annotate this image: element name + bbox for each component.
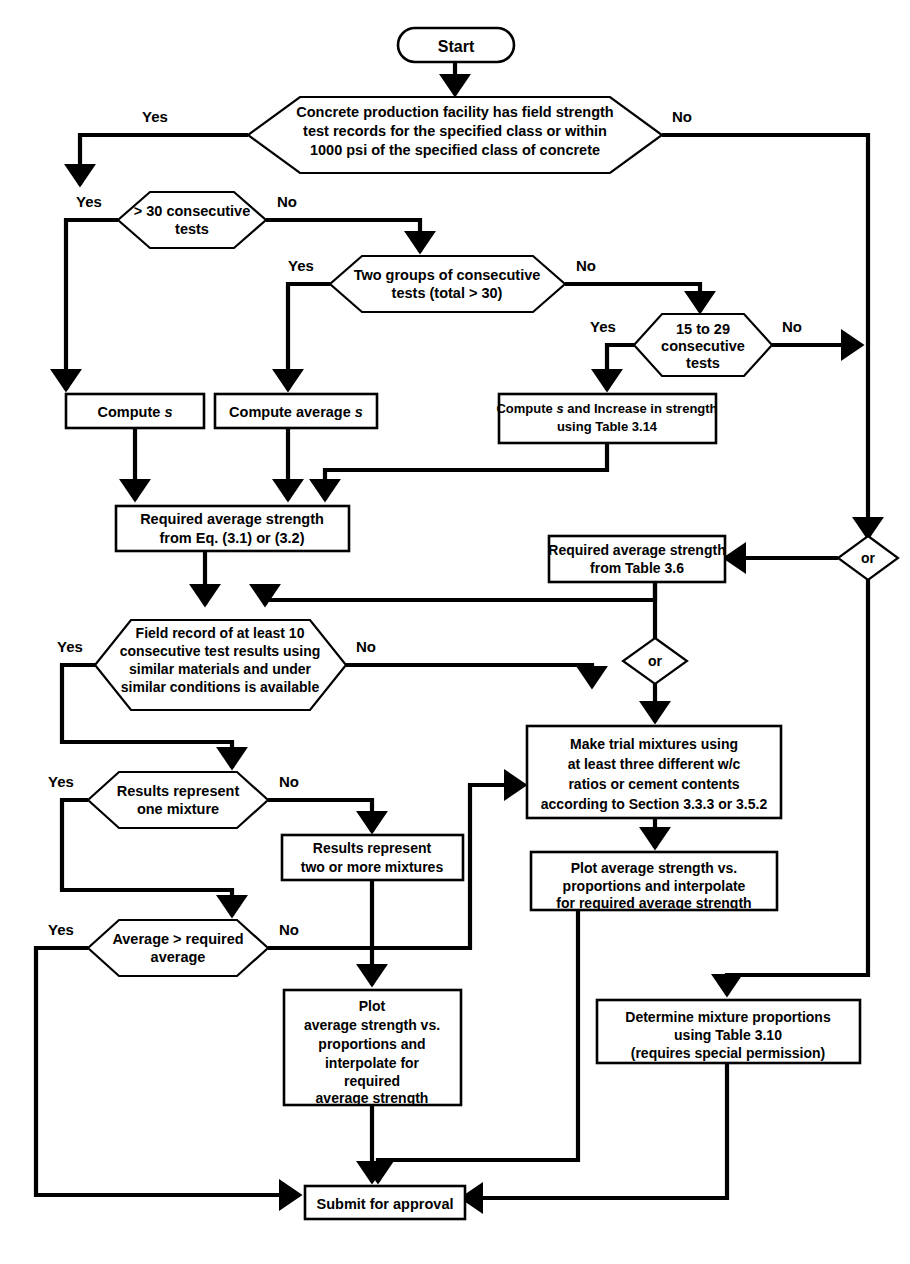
node-compute-table-line1: Compute s and Increase in strength bbox=[496, 401, 717, 416]
label-d2-yes: Yes bbox=[76, 193, 102, 210]
node-d5-line3: similar materials and under bbox=[129, 661, 312, 677]
edge-determine-to-submit bbox=[462, 1063, 727, 1198]
node-d1-line3: 1000 psi of the specified class of concr… bbox=[310, 142, 600, 158]
node-start-label: Start bbox=[438, 38, 475, 55]
label-d5-yes: Yes bbox=[57, 638, 83, 655]
node-start[interactable]: Start bbox=[398, 28, 514, 62]
node-plotleft-line4: interpolate for bbox=[325, 1055, 420, 1071]
node-d1-line2: test records for the specified class or … bbox=[303, 123, 607, 139]
node-decision-average-required[interactable]: Average > required average bbox=[88, 920, 268, 976]
node-or2-label: or bbox=[648, 653, 663, 669]
label-d7-yes: Yes bbox=[48, 921, 74, 938]
node-compute-table-line2: using Table 3.14 bbox=[557, 419, 658, 434]
edge-d2-yes bbox=[66, 220, 118, 390]
node-compute-s-label: Compute s bbox=[98, 404, 173, 420]
node-d1-line1: Concrete production facility has field s… bbox=[296, 104, 613, 120]
edge-d2-no bbox=[266, 220, 420, 252]
node-plot-left[interactable]: Plot average strength vs. proportions an… bbox=[284, 990, 461, 1106]
node-results-two-or-more[interactable]: Results represent two or more mixtures bbox=[282, 835, 463, 880]
node-d6-line1: Results represent bbox=[117, 783, 240, 799]
node-submit-label: Submit for approval bbox=[317, 1196, 454, 1212]
node-d7-line1: Average > required bbox=[112, 931, 243, 947]
node-d6-line2: one mixture bbox=[137, 801, 219, 817]
node-or-diamond-1[interactable]: or bbox=[838, 536, 898, 580]
node-resultstwo-line2: two or more mixtures bbox=[301, 859, 444, 875]
node-compute-s[interactable]: Compute s bbox=[66, 394, 204, 428]
label-d4-yes: Yes bbox=[590, 318, 616, 335]
edge-d4-yes bbox=[607, 345, 634, 390]
node-determine-line2: using Table 3.10 bbox=[674, 1027, 782, 1043]
node-d5-line4: similar conditions is available bbox=[121, 679, 320, 695]
node-decision-15-29-tests[interactable]: 15 to 29 consecutive tests bbox=[634, 314, 772, 376]
node-reqtable-line2: from Table 3.6 bbox=[590, 560, 684, 576]
node-d2-line1: > 30 consecutive bbox=[134, 203, 250, 219]
node-required-avg-eq[interactable]: Required average strength from Eq. (3.1)… bbox=[116, 506, 349, 551]
node-d5-line1: Field record of at least 10 bbox=[136, 625, 305, 641]
label-d6-yes: Yes bbox=[48, 773, 74, 790]
node-trial-line1: Make trial mixtures using bbox=[570, 736, 738, 752]
node-d4-line2: consecutive bbox=[661, 338, 745, 354]
node-plotleft-line2: average strength vs. bbox=[304, 1017, 440, 1033]
edge-d3-yes bbox=[288, 284, 330, 390]
label-d6-no: No bbox=[279, 773, 299, 790]
node-d5-line2: consecutive test results using bbox=[120, 643, 321, 659]
node-or1-label: or bbox=[861, 550, 876, 566]
label-d2-no: No bbox=[277, 193, 297, 210]
node-d3-line1: Two groups of consecutive bbox=[354, 267, 541, 283]
label-d1-no: No bbox=[672, 108, 692, 125]
node-compute-average-s-label: Compute average s bbox=[229, 404, 363, 420]
edge-d7-yes bbox=[36, 948, 300, 1195]
node-reqtable-line1: Required average strength bbox=[548, 542, 725, 558]
node-decision-30-tests[interactable]: > 30 consecutive tests bbox=[118, 192, 266, 248]
node-required-avg-table36[interactable]: Required average strength from Table 3.6 bbox=[548, 536, 725, 582]
node-plotright-line1: Plot average strength vs. bbox=[571, 860, 738, 876]
node-decision-one-mixture[interactable]: Results represent one mixture bbox=[88, 772, 268, 828]
edge-computetable-to-reqeq bbox=[325, 443, 607, 500]
node-or-diamond-2[interactable]: or bbox=[623, 638, 687, 684]
node-resultstwo-line1: Results represent bbox=[313, 840, 432, 856]
label-d3-yes: Yes bbox=[288, 257, 314, 274]
node-d7-line2: average bbox=[151, 949, 206, 965]
node-decision-field-records[interactable]: Concrete production facility has field s… bbox=[248, 97, 662, 173]
node-determine-line1: Determine mixture proportions bbox=[625, 1009, 831, 1025]
node-plotleft-line5: required bbox=[344, 1073, 400, 1089]
node-plotleft-line6: average strength bbox=[316, 1090, 429, 1106]
node-reqeq-line1: Required average strength bbox=[140, 511, 324, 527]
edge-d1-yes bbox=[80, 135, 248, 185]
label-d1-yes: Yes bbox=[142, 108, 168, 125]
node-determine-line3: (requires special permission) bbox=[631, 1045, 826, 1061]
label-d4-no: No bbox=[782, 318, 802, 335]
node-d4-line3: tests bbox=[686, 355, 720, 371]
node-compute-average-s[interactable]: Compute average s bbox=[215, 394, 377, 428]
node-plotright-line3: for required average strength bbox=[556, 895, 751, 911]
edge-d5-no bbox=[346, 665, 592, 687]
node-trial-line2: at least three different w/c bbox=[568, 756, 741, 772]
label-d7-no: No bbox=[279, 921, 299, 938]
node-trial-line3: ratios or cement contents bbox=[568, 776, 739, 792]
node-plot-right[interactable]: Plot average strength vs. proportions an… bbox=[531, 852, 777, 911]
node-d3-line2: tests (total > 30) bbox=[392, 285, 503, 301]
node-determine-proportions[interactable]: Determine mixture proportions using Tabl… bbox=[597, 1000, 860, 1063]
node-decision-two-groups[interactable]: Two groups of consecutive tests (total >… bbox=[330, 256, 565, 312]
node-plotright-line2: proportions and interpolate bbox=[563, 878, 746, 894]
node-plotleft-line3: proportions and bbox=[318, 1036, 425, 1052]
node-d4-line1: 15 to 29 bbox=[676, 321, 730, 337]
edge-d3-no bbox=[565, 284, 700, 312]
node-plotleft-line1: Plot bbox=[359, 998, 386, 1014]
edge-reqtable-to-d5 bbox=[265, 582, 655, 605]
node-compute-table-314[interactable]: Compute s and Increase in strength using… bbox=[496, 394, 717, 443]
node-submit-for-approval[interactable]: Submit for approval bbox=[305, 1186, 465, 1219]
label-d3-no: No bbox=[576, 257, 596, 274]
edge-d6-no bbox=[268, 800, 372, 832]
node-trial-line4: according to Section 3.3.3 or 3.5.2 bbox=[541, 796, 768, 812]
label-d5-no: No bbox=[356, 638, 376, 655]
node-decision-field-record-10[interactable]: Field record of at least 10 consecutive … bbox=[95, 620, 346, 710]
node-make-trial-mixtures[interactable]: Make trial mixtures using at least three… bbox=[527, 726, 781, 818]
flowchart-diagram: Start Concrete production facility has f… bbox=[0, 0, 910, 1264]
node-d2-line2: tests bbox=[175, 221, 209, 237]
node-reqeq-line2: from Eq. (3.1) or (3.2) bbox=[159, 530, 304, 546]
